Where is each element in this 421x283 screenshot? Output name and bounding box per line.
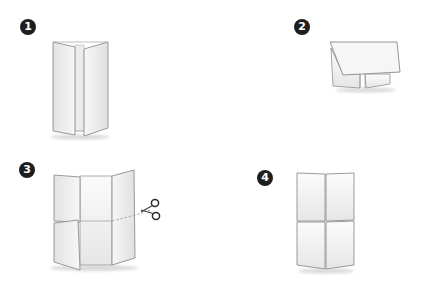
step-4-panel-top-left (297, 173, 325, 221)
step-1-illustration (50, 42, 110, 140)
step-1-left-panel (53, 42, 75, 135)
diagram-art (0, 0, 421, 283)
step-4-panel-bottom-left (297, 222, 325, 269)
step-2-badge: 2 (294, 19, 310, 35)
step-4-illustration (297, 173, 354, 274)
step-4-badge: 4 (257, 170, 273, 186)
step-3-left-lower-panel (54, 220, 80, 270)
step-1-right-panel (84, 42, 108, 136)
step-3-middle-panel (80, 176, 112, 265)
step-2-right-tab (365, 74, 390, 88)
step-2-illustration (330, 42, 400, 93)
step-3-left-upper-panel (54, 175, 80, 222)
step-4-panel-top-right (326, 173, 354, 221)
scissors-icon (141, 200, 160, 220)
step-3-illustration (50, 170, 143, 271)
folding-diagram: 1 2 3 4 (0, 0, 421, 283)
step-4-panel-bottom-right (326, 221, 354, 269)
step-3-badge: 3 (19, 162, 35, 178)
step-3-right-panel (112, 170, 135, 265)
step-1-badge: 1 (20, 19, 36, 35)
